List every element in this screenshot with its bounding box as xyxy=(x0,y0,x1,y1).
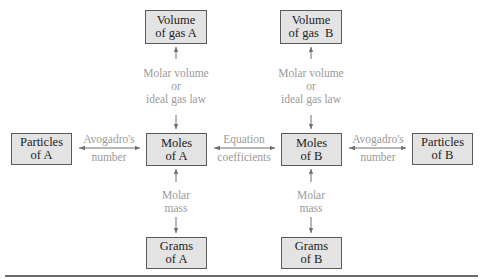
edge-label-line: mass xyxy=(281,202,341,215)
node-moles-of-b: Moles of B xyxy=(281,133,342,166)
node-label: of B xyxy=(301,150,323,163)
node-particles-of-a: Particles of A xyxy=(11,133,72,165)
edge-label-molar-mass-b: Molar mass xyxy=(281,189,341,215)
node-grams-of-a: Grams of A xyxy=(146,237,207,269)
edge-label-line: ideal gas law xyxy=(271,93,351,106)
node-volume-of-gas-b: Volume of gas B xyxy=(280,10,342,44)
edge-label-molar-mass-a: Molar mass xyxy=(146,189,206,215)
edge-label-line: or xyxy=(271,80,351,93)
node-label: of B xyxy=(432,149,454,162)
edge-label-molar-volume-b: Molar volume or ideal gas law xyxy=(271,67,351,106)
node-label: of gas A xyxy=(155,27,197,40)
node-label: of A xyxy=(166,253,188,266)
edge-label-equation-coefficients: Equation coefficients xyxy=(208,133,280,164)
edge-label-line: Molar xyxy=(146,189,206,202)
node-label: Moles xyxy=(161,137,192,150)
edge-label-line: mass xyxy=(146,202,206,215)
edge-label-line: Avogadro's xyxy=(343,133,413,146)
edge-label-avogadro-a: Avogadro's number xyxy=(74,133,144,164)
edge-label-line: Equation xyxy=(208,133,280,146)
edge-label-line: coefficients xyxy=(208,151,280,164)
edge-label-line: Molar volume xyxy=(271,67,351,80)
node-label: of A xyxy=(166,150,188,163)
node-volume-of-gas-a: Volume of gas A xyxy=(145,10,207,44)
node-label: Moles xyxy=(296,137,327,150)
edge-label-line: Molar volume xyxy=(136,67,216,80)
node-grams-of-b: Grams of B xyxy=(281,237,342,269)
edge-label-line: Molar xyxy=(281,189,341,202)
edge-label-avogadro-b: Avogadro's number xyxy=(343,133,413,164)
node-particles-of-b: Particles of B xyxy=(412,133,473,165)
edge-label-line: number xyxy=(74,151,144,164)
edge-label-molar-volume-a: Molar volume or ideal gas law xyxy=(136,67,216,106)
node-label: of B xyxy=(301,253,323,266)
node-moles-of-a: Moles of A xyxy=(146,133,207,166)
edge-label-line: Avogadro's xyxy=(74,133,144,146)
bottom-divider xyxy=(5,275,478,277)
node-label: of gas B xyxy=(289,27,334,40)
edge-label-line: or xyxy=(136,80,216,93)
edge-label-line: number xyxy=(343,151,413,164)
node-label: of A xyxy=(31,149,53,162)
edge-label-line: ideal gas law xyxy=(136,93,216,106)
